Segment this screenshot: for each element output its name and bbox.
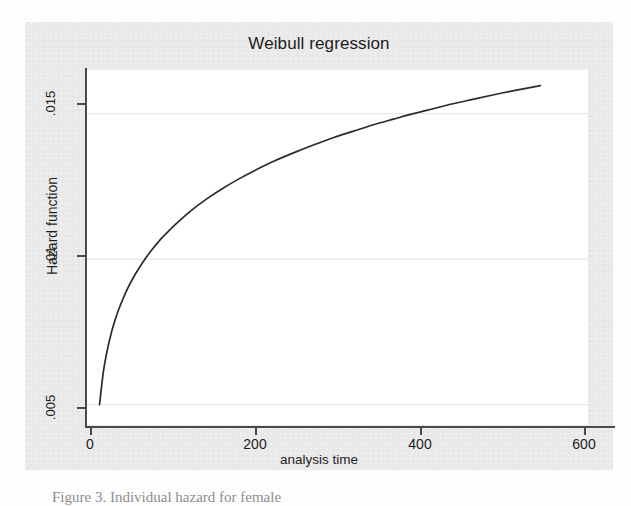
x-axis-tick [255, 427, 257, 435]
y-axis-tick [77, 103, 86, 105]
x-axis-tick [420, 427, 422, 435]
hazard-curve-line [100, 86, 541, 405]
x-axis-tick-label: 400 [394, 436, 446, 452]
y-axis-tick [77, 255, 86, 257]
x-axis-tick-label: 200 [229, 436, 281, 452]
x-axis-line [85, 426, 615, 428]
chart-title: Weibull regression [25, 34, 613, 54]
x-axis-tick [584, 427, 586, 435]
y-axis-title: Hazard function [44, 166, 60, 286]
scanned-page: Weibull regression .015 .01 .005 0 200 4… [0, 0, 631, 506]
plot-canvas [86, 70, 588, 425]
x-axis-tick [90, 427, 92, 435]
y-axis-tick [77, 407, 86, 409]
y-axis-tick-label: .015 [43, 81, 58, 127]
x-axis-tick-label: 600 [558, 436, 610, 452]
plot-area [86, 70, 588, 425]
y-axis-line [85, 68, 87, 427]
gridlines [86, 114, 588, 405]
figure-caption: Figure 3. Individual hazard for female [52, 489, 281, 506]
x-axis-tick-label: 0 [64, 436, 116, 452]
y-axis-tick-label: .005 [43, 385, 58, 431]
figure-panel: Weibull regression .015 .01 .005 0 200 4… [25, 22, 613, 470]
x-axis-title: analysis time [25, 452, 613, 467]
